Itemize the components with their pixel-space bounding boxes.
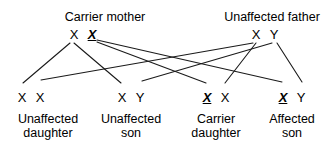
allele-father-x: X [251,28,262,42]
offspring-label-unaffected-son-line1: Unaffected [101,112,161,126]
offspring-alleles-unaffected-daughter: XX [17,91,46,105]
parent-title-father-text: Unaffected father [224,10,320,24]
offspring-label-unaffected-son: Unaffected son [101,113,161,140]
inheritance-line [23,43,70,83]
allele-affected-son-x-mutant: X [278,91,289,105]
allele-carrier-daughter-x1-mutant: X [202,91,213,105]
offspring-label-unaffected-daughter-line1: Unaffected [18,112,78,126]
parent-alleles-father: XY [251,28,280,42]
parent-title-mother-text: Carrier mother [65,10,146,24]
offspring-alleles-unaffected-son: XY [117,91,146,105]
allele-unaffected-son-y: Y [135,91,146,105]
inheritance-line [97,40,282,82]
offspring-label-carrier-daughter-line1: Carrier [197,112,235,126]
allele-carrier-daughter-x2: X [220,91,231,105]
inheritance-diagram: Carrier mother XX Unaffected father XY X… [0,0,334,148]
offspring-label-unaffected-daughter: Unaffected daughter [18,113,78,140]
offspring-label-affected-son-line1: Affected [269,112,315,126]
offspring-label-unaffected-son-line2: son [101,127,161,141]
offspring-label-carrier-daughter: Carrier daughter [191,113,240,140]
parent-title-father: Unaffected father [224,10,320,24]
parent-alleles-mother: XX [69,28,98,42]
inheritance-line [277,43,302,82]
offspring-label-unaffected-daughter-line2: daughter [18,127,78,141]
offspring-label-affected-son: Affected son [269,113,315,140]
allele-unaffected-daughter-x1: X [17,91,28,105]
offspring-label-carrier-daughter-line2: daughter [191,127,240,141]
inheritance-line [41,43,253,80]
allele-mother-x2-mutant: X [87,28,98,42]
parent-title-mother: Carrier mother [65,10,146,24]
allele-affected-son-y: Y [296,91,307,105]
offspring-alleles-affected-son: XY [278,91,307,105]
allele-father-y: Y [269,28,280,42]
offspring-label-affected-son-line2: son [269,127,315,141]
allele-mother-x1: X [69,28,80,42]
allele-unaffected-daughter-x2: X [35,91,46,105]
allele-unaffected-son-x: X [117,91,128,105]
offspring-alleles-carrier-daughter: XX [202,91,231,105]
inheritance-line [74,43,121,83]
